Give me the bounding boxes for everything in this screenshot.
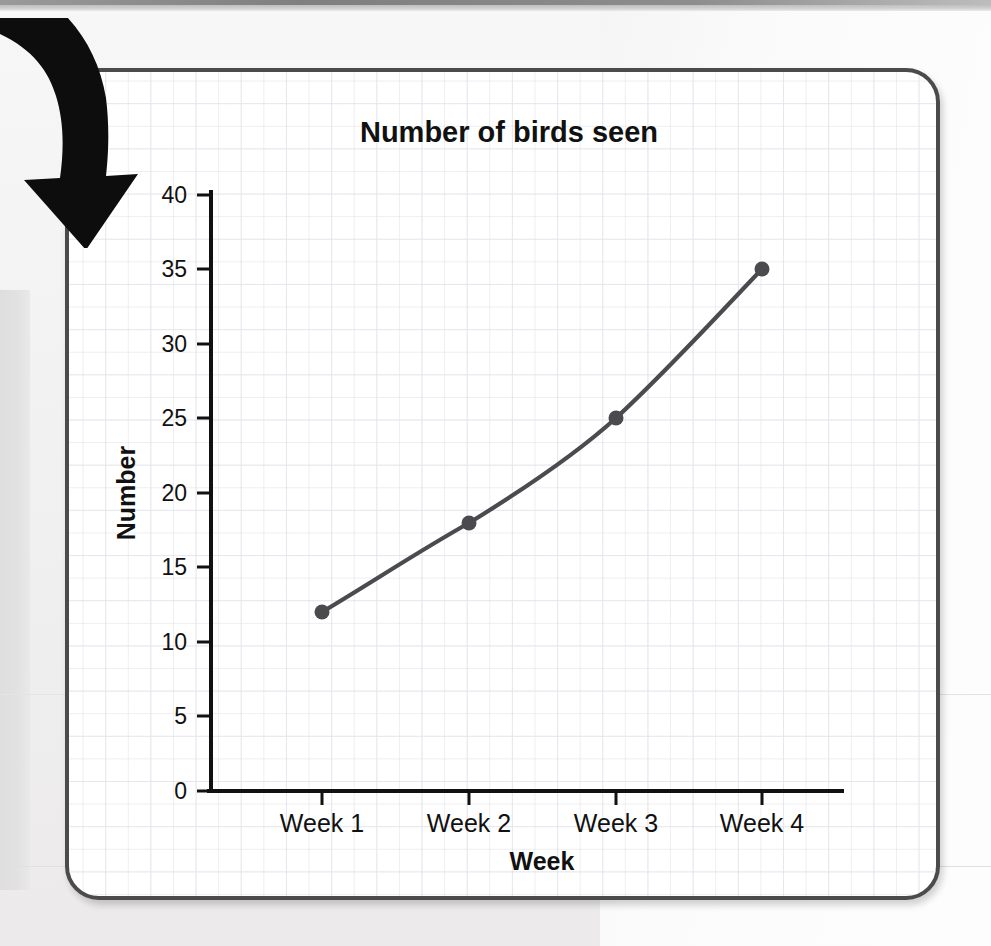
x-axis-title: Week	[510, 847, 575, 875]
x-tick-label-week-3: Week 3	[574, 809, 658, 837]
y-tick-label-25: 25	[161, 405, 187, 431]
y-tick-label-35: 35	[161, 256, 187, 282]
x-tick-label-week-1: Week 1	[280, 809, 364, 837]
chart-card: Number of birds seen 0 5 10	[65, 68, 940, 900]
data-point-week-3	[609, 411, 624, 426]
data-line-number-of-birds	[322, 269, 762, 612]
y-tick-label-5: 5	[174, 703, 187, 729]
data-point-week-2	[462, 516, 477, 531]
y-tick-label-30: 30	[161, 331, 187, 357]
line-chart: Number of birds seen 0 5 10	[65, 68, 940, 900]
x-axis-ticks	[322, 791, 762, 805]
y-tick-label-15: 15	[161, 554, 187, 580]
x-axis-tick-labels: Week 1 Week 2 Week 3 Week 4	[280, 809, 804, 837]
page-background-left-strip	[0, 290, 30, 890]
data-point-markers	[315, 262, 770, 620]
x-tick-label-week-2: Week 2	[427, 809, 511, 837]
y-tick-label-40: 40	[161, 182, 187, 208]
y-tick-label-20: 20	[161, 480, 187, 506]
y-axis-tick-labels: 0 5 10 15 20 25 30 35 40	[161, 182, 187, 804]
y-axis-title: Number	[112, 446, 140, 541]
data-point-week-1	[315, 605, 330, 620]
y-tick-label-0: 0	[174, 778, 187, 804]
data-point-week-4	[755, 262, 770, 277]
y-tick-label-10: 10	[161, 629, 187, 655]
x-tick-label-week-4: Week 4	[720, 809, 804, 837]
y-axis-ticks	[197, 195, 211, 791]
page-root: Number of birds seen 0 5 10	[0, 0, 991, 946]
page-background-top-band-dark	[0, 0, 991, 5]
chart-title: Number of birds seen	[360, 116, 658, 148]
